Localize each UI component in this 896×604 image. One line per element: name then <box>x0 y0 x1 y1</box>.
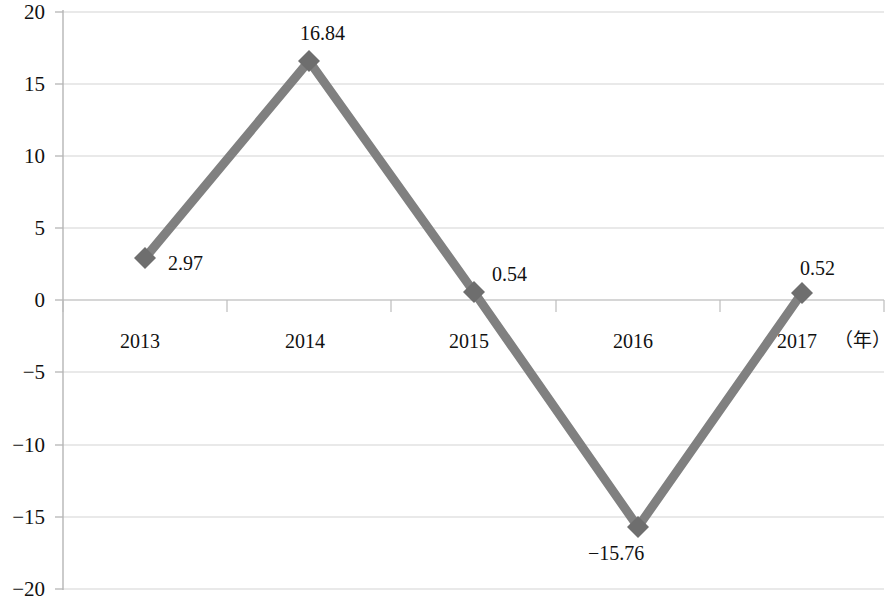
line-chart: 20 15 10 5 0 −5 −10 −15 −20 2013 2014 20… <box>0 0 896 604</box>
x-tick-label-2016: 2016 <box>598 331 668 351</box>
data-label-2016: −15.76 <box>588 543 644 563</box>
y-axis-ticks <box>55 12 63 589</box>
y-tick-label-neg5: −5 <box>0 362 45 383</box>
x-tick-label-2013: 2013 <box>105 331 175 351</box>
chart-canvas <box>0 0 896 604</box>
data-markers <box>134 50 813 538</box>
data-label-2013: 2.97 <box>168 253 203 273</box>
y-tick-label-15: 15 <box>0 74 45 95</box>
x-axis-unit-label: （年） <box>834 331 891 350</box>
data-label-2015: 0.54 <box>492 264 527 284</box>
x-tick-label-2017: 2017 <box>762 331 832 351</box>
x-tick-label-2014: 2014 <box>270 331 340 351</box>
y-tick-label-10: 10 <box>0 146 45 167</box>
data-label-2017: 0.52 <box>800 258 835 278</box>
y-tick-label-5: 5 <box>0 218 45 239</box>
y-tick-label-neg10: −10 <box>0 435 45 456</box>
y-tick-label-neg15: −15 <box>0 507 45 528</box>
y-tick-label-20: 20 <box>0 2 45 23</box>
y-tick-label-neg20: −20 <box>0 579 45 600</box>
y-tick-label-0: 0 <box>0 290 45 311</box>
data-label-2014: 16.84 <box>300 23 345 43</box>
x-tick-label-2015: 2015 <box>434 331 504 351</box>
